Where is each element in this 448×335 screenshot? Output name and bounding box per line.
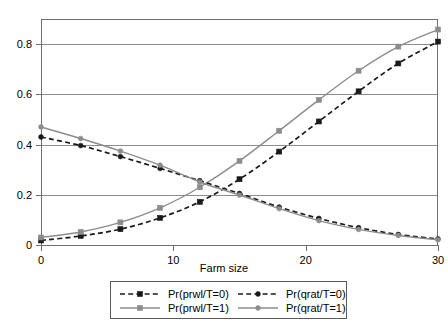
data-point — [158, 163, 163, 168]
legend-marker-swatch — [138, 306, 143, 311]
legend-label: Pr(prwl/T=0) — [168, 288, 229, 300]
x-axis-title: Farm size — [200, 262, 248, 274]
data-point — [78, 143, 83, 148]
data-point — [158, 215, 163, 220]
data-point — [39, 235, 44, 240]
data-point — [356, 227, 361, 232]
series-Pr(qrat/T=1) — [39, 125, 441, 243]
data-point — [118, 149, 123, 154]
x-tick-label-10: 10 — [167, 254, 179, 266]
y-axis-tick-labels: 00.20.40.60.8 — [17, 38, 32, 251]
data-point — [356, 89, 361, 94]
data-point — [237, 158, 242, 163]
x-tick-label-20: 20 — [300, 254, 312, 266]
series-Pr(prwl/T=0) — [39, 39, 441, 243]
data-point — [396, 61, 401, 66]
y-tick-label-0.6: 0.6 — [17, 88, 32, 100]
series-Pr(prwl/T=1) — [39, 27, 441, 240]
legend-label: Pr(qrat/T=0) — [286, 288, 346, 300]
y-tick-label-0.2: 0.2 — [17, 189, 32, 201]
data-point — [237, 177, 242, 182]
data-point — [197, 185, 202, 190]
data-point — [277, 149, 282, 154]
data-point — [39, 135, 44, 140]
legend-marker-swatch — [256, 292, 261, 297]
y-tick-label-0.4: 0.4 — [17, 139, 32, 151]
axis-ticks — [36, 45, 439, 252]
legend-marker-swatch — [138, 292, 143, 297]
series-line-Pr(qrat/T=1) — [41, 127, 438, 240]
data-point — [39, 125, 44, 130]
series-line-Pr(qrat/T=0) — [41, 137, 438, 239]
chart-figure: 00.20.40.60.8 0102030 Farm size Pr(prwl/… — [0, 0, 448, 335]
series-line-Pr(prwl/T=1) — [41, 30, 438, 238]
data-point — [396, 233, 401, 238]
probability-line-chart: 00.20.40.60.8 0102030 Farm size Pr(prwl/… — [0, 0, 448, 335]
data-point — [356, 68, 361, 73]
data-point — [436, 39, 441, 44]
legend-marker-swatch — [256, 306, 261, 311]
y-tick-label-0: 0 — [26, 239, 32, 251]
data-point — [436, 27, 441, 32]
legend-label: Pr(prwl/T=1) — [168, 302, 229, 314]
x-tick-label-30: 30 — [432, 254, 444, 266]
data-point — [158, 205, 163, 210]
data-point — [316, 119, 321, 124]
data-point — [118, 227, 123, 232]
data-point — [277, 128, 282, 133]
y-tick-label-0.8: 0.8 — [17, 38, 32, 50]
data-point — [197, 199, 202, 204]
data-point — [118, 220, 123, 225]
x-tick-label-0: 0 — [38, 254, 44, 266]
data-series-group — [39, 27, 441, 243]
data-point — [237, 193, 242, 198]
chart-legend: Pr(prwl/T=0)Pr(qrat/T=0)Pr(prwl/T=1)Pr(q… — [111, 282, 347, 319]
data-point — [78, 136, 83, 141]
data-point — [317, 218, 322, 223]
data-point — [316, 97, 321, 102]
legend-label: Pr(qrat/T=1) — [286, 302, 346, 314]
axis-lines — [41, 19, 438, 246]
data-point — [118, 154, 123, 159]
series-line-Pr(prwl/T=0) — [41, 42, 438, 241]
data-point — [277, 206, 282, 211]
data-point — [396, 44, 401, 49]
data-point — [197, 180, 202, 185]
data-point — [436, 237, 441, 242]
data-point — [78, 229, 83, 234]
series-Pr(qrat/T=0) — [39, 135, 441, 242]
